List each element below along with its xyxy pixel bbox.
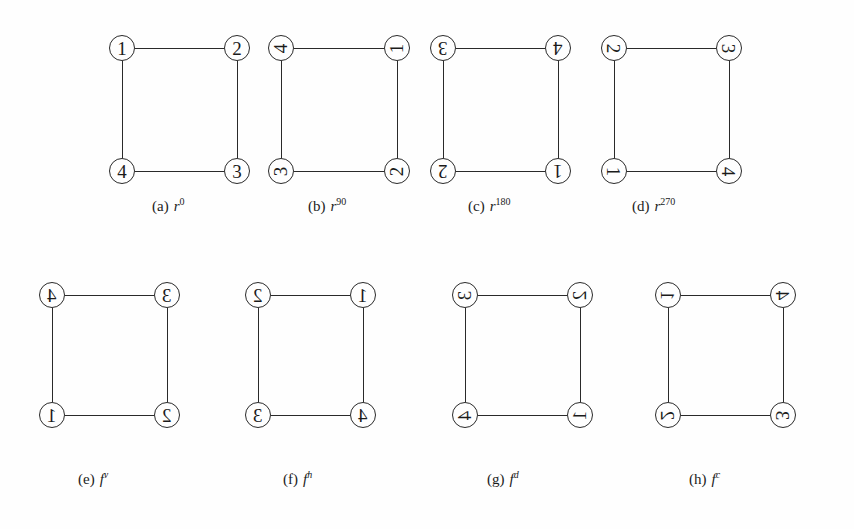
edge-right-c <box>558 61 559 158</box>
caption-tag-f: (f) <box>283 471 298 487</box>
edge-top-e <box>65 295 154 296</box>
edge-top-f <box>271 295 350 296</box>
graph-figure-h: 1423 <box>648 275 803 435</box>
node-label-tr-e: 3 <box>162 286 172 305</box>
node-label-bl-g: 4 <box>456 410 475 420</box>
square-graph-f: 2134 <box>238 275 383 435</box>
edge-left-f <box>258 308 259 402</box>
caption-tag-c: (c) <box>468 198 485 214</box>
caption-symbol-b: r <box>331 198 337 214</box>
caption-symbol-e: f <box>100 471 104 487</box>
node-bottom-right-d: 4 <box>716 158 742 184</box>
caption-exponent-d: 270 <box>660 196 675 207</box>
edge-bottom-d <box>627 171 716 172</box>
node-top-right-c: 4 <box>545 35 571 61</box>
caption-tag-a: (a) <box>152 198 169 214</box>
node-label-tl-h: 1 <box>659 290 678 300</box>
node-label-tl-f: 2 <box>253 286 263 305</box>
graph-figure-b: 4132 <box>261 28 417 191</box>
node-label-bl-d: 1 <box>605 166 624 176</box>
node-bottom-left-c: 2 <box>430 158 456 184</box>
node-bottom-left-h: 2 <box>655 402 681 428</box>
node-label-tr-d: 3 <box>720 43 739 53</box>
node-top-right-a: 2 <box>224 35 250 61</box>
node-top-left-a: 1 <box>109 35 135 61</box>
node-bottom-right-g: 1 <box>567 402 593 428</box>
edge-right-b <box>397 61 398 158</box>
graph-figure-c: 3421 <box>423 28 578 191</box>
node-bottom-left-d: 1 <box>601 158 627 184</box>
edge-top-d <box>627 48 716 49</box>
edge-right-h <box>783 308 784 402</box>
node-label-bl-h: 2 <box>659 410 678 420</box>
caption-symbol-c: r <box>490 198 496 214</box>
edge-top-h <box>681 295 770 296</box>
node-top-right-f: 1 <box>350 282 376 308</box>
caption-exponent-b: 90 <box>336 196 346 207</box>
edge-top-a <box>135 48 224 49</box>
caption-tag-h: (h) <box>689 471 707 487</box>
node-bottom-right-e: 2 <box>154 402 180 428</box>
node-label-tl-d: 2 <box>605 43 624 53</box>
node-bottom-left-a: 4 <box>109 158 135 184</box>
graph-figure-g: 3241 <box>445 275 600 435</box>
caption-symbol-g: f <box>510 471 514 487</box>
node-label-tr-c: 4 <box>553 39 563 58</box>
caption-exponent-h: c <box>716 469 720 480</box>
node-label-tr-a: 2 <box>232 39 242 58</box>
edge-left-h <box>668 308 669 402</box>
edge-left-d <box>614 61 615 158</box>
figure-caption-d: (d)r270 <box>632 198 675 215</box>
node-label-bl-c: 2 <box>438 162 448 181</box>
node-label-br-g: 1 <box>571 410 590 420</box>
caption-tag-e: (e) <box>78 471 95 487</box>
edge-left-g <box>465 308 466 402</box>
node-label-tl-c: 3 <box>438 39 448 58</box>
node-label-tr-b: 1 <box>388 43 407 53</box>
caption-tag-g: (g) <box>487 471 505 487</box>
node-label-br-a: 3 <box>232 162 242 181</box>
node-label-br-b: 2 <box>388 166 407 176</box>
edge-bottom-e <box>65 415 154 416</box>
node-top-left-g: 3 <box>452 282 478 308</box>
edge-bottom-f <box>271 415 350 416</box>
edge-left-a <box>122 61 123 158</box>
node-top-left-b: 4 <box>268 35 294 61</box>
node-top-left-d: 2 <box>601 35 627 61</box>
node-top-right-e: 3 <box>154 282 180 308</box>
caption-symbol-h: f <box>712 471 716 487</box>
square-graph-b: 4132 <box>261 28 417 191</box>
node-top-right-g: 2 <box>567 282 593 308</box>
edge-bottom-g <box>478 415 567 416</box>
square-graph-c: 3421 <box>423 28 578 191</box>
node-bottom-left-g: 4 <box>452 402 478 428</box>
square-graph-d: 2314 <box>594 28 749 191</box>
figure-caption-e: (e)fv <box>78 471 108 488</box>
caption-exponent-g: d <box>514 469 519 480</box>
node-label-br-e: 2 <box>162 406 172 425</box>
node-bottom-right-c: 1 <box>545 158 571 184</box>
node-label-bl-a: 4 <box>117 162 127 181</box>
node-label-tl-g: 3 <box>456 290 475 300</box>
caption-symbol-f: f <box>303 471 307 487</box>
square-graph-g: 3241 <box>445 275 600 435</box>
node-bottom-right-b: 2 <box>384 158 410 184</box>
edge-left-e <box>52 308 53 402</box>
edge-top-c <box>456 48 545 49</box>
caption-exponent-f: h <box>307 469 312 480</box>
edge-bottom-b <box>294 171 384 172</box>
node-top-left-e: 4 <box>39 282 65 308</box>
node-top-right-d: 3 <box>716 35 742 61</box>
node-label-tr-f: 1 <box>358 286 368 305</box>
node-label-br-f: 4 <box>358 406 368 425</box>
node-label-tl-a: 1 <box>117 39 127 58</box>
edge-right-d <box>729 61 730 158</box>
node-label-bl-e: 1 <box>47 406 57 425</box>
node-bottom-left-f: 3 <box>245 402 271 428</box>
node-top-right-h: 4 <box>770 282 796 308</box>
edge-right-a <box>237 61 238 158</box>
figure-caption-h: (h)fc <box>689 471 720 488</box>
figure-caption-b: (b)r90 <box>308 198 346 215</box>
edge-top-b <box>294 48 384 49</box>
node-label-tl-e: 4 <box>47 286 57 305</box>
